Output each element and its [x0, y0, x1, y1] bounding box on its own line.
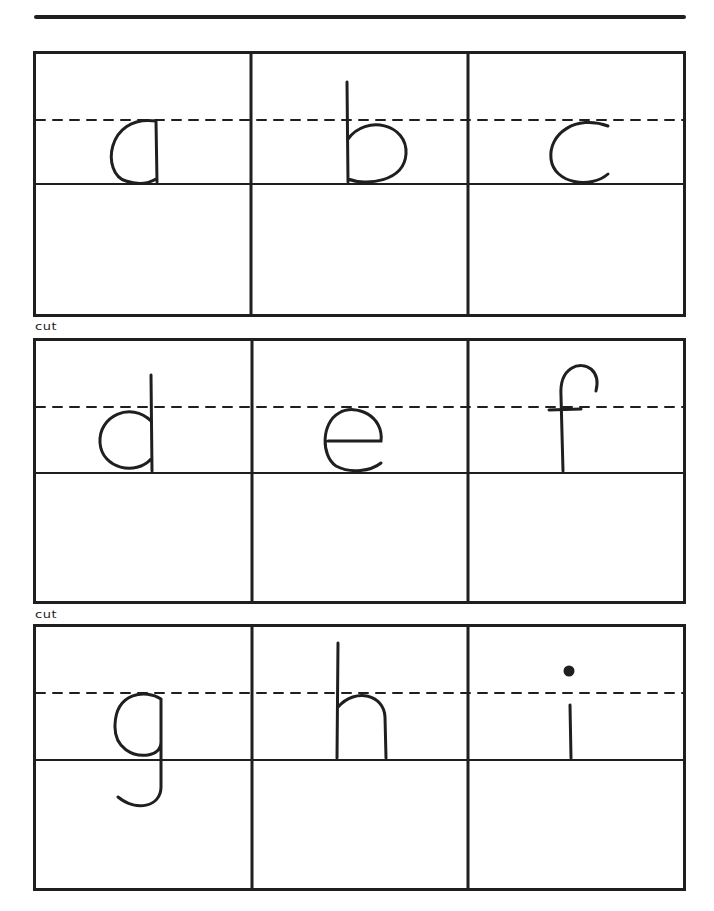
top-rule [34, 15, 686, 19]
letter-row-2: d e f [33, 338, 686, 604]
row-3-drawing [36, 627, 683, 888]
cut-label-1: cut [35, 320, 57, 332]
letter-row-1: a b c [33, 51, 686, 317]
row-1-drawing [36, 54, 683, 314]
cut-label-2: cut [35, 608, 57, 620]
row-2-drawing [36, 341, 683, 601]
letter-row-3: g h i [33, 624, 686, 891]
